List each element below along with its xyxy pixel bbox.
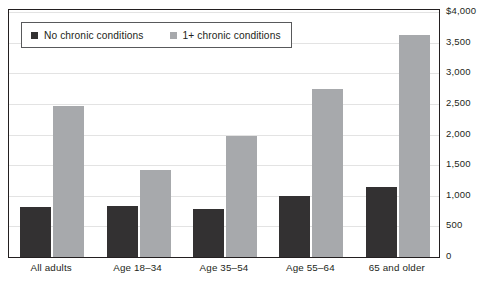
y-axis-tick-label: 3,500	[446, 37, 471, 47]
bar-one-plus-chronic	[312, 89, 343, 257]
x-axis-tick-label: 65 and older	[354, 261, 440, 275]
y-axis-tick-label: $4,000	[446, 6, 476, 16]
chart-legend: No chronic conditions 1+ chronic conditi…	[21, 22, 292, 48]
bar-no-chronic	[366, 187, 397, 257]
y-axis-tick-label: 2,000	[446, 129, 471, 139]
bar-one-plus-chronic	[140, 170, 171, 257]
legend-swatch-icon	[170, 32, 177, 39]
legend-item-no-chronic-conditions: No chronic conditions	[31, 30, 144, 41]
bar-one-plus-chronic	[226, 136, 257, 257]
x-axis-tick-label: Age 18–34	[94, 261, 180, 275]
x-axis-tick-label: Age 35–54	[181, 261, 267, 275]
bar-no-chronic	[193, 209, 224, 257]
legend-label: 1+ chronic conditions	[183, 30, 281, 41]
legend-swatch-icon	[31, 32, 38, 39]
bar-no-chronic	[279, 196, 310, 257]
y-axis: 05001,0001,5002,0002,5003,0003,500$4,000	[446, 0, 490, 281]
legend-item-one-plus-chronic-conditions: 1+ chronic conditions	[170, 30, 281, 41]
bar-group	[366, 10, 430, 257]
y-axis-tick-label: 0	[446, 251, 451, 261]
legend-label: No chronic conditions	[44, 30, 144, 41]
y-axis-tick-label: 2,500	[446, 98, 471, 108]
y-axis-tick-label: 500	[446, 220, 462, 230]
bar-one-plus-chronic	[53, 106, 84, 257]
bar-chart: 05001,0001,5002,0002,5003,0003,500$4,000…	[0, 0, 490, 281]
y-axis-tick-label: 1,500	[446, 159, 471, 169]
y-axis-tick-label: 1,000	[446, 190, 471, 200]
x-axis: All adultsAge 18–34Age 35–54Age 55–6465 …	[8, 261, 440, 279]
bar-no-chronic	[20, 207, 51, 257]
x-axis-tick-label: Age 55–64	[267, 261, 353, 275]
bar-one-plus-chronic	[399, 35, 430, 257]
clipped-caption-text	[8, 0, 438, 5]
bar-no-chronic	[107, 206, 138, 257]
x-axis-tick-label: All adults	[8, 261, 94, 275]
y-axis-tick-label: 3,000	[446, 67, 471, 77]
